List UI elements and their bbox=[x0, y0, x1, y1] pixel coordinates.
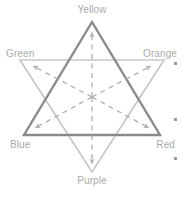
vertex-label-red: Red bbox=[156, 139, 175, 150]
vertex-label-green: Green bbox=[6, 48, 34, 59]
vertex-label-orange: Orange bbox=[143, 48, 177, 59]
bullet-dot-3 bbox=[174, 157, 177, 160]
diagram-canvas: Yellow Green Orange Blue Red Purple bbox=[0, 0, 184, 197]
bullet-dot-1 bbox=[174, 62, 177, 65]
hexagram-graphic bbox=[0, 0, 184, 197]
vertex-label-yellow: Yellow bbox=[0, 4, 184, 15]
radiating-arrow-group bbox=[33, 32, 151, 164]
bullet-dot-2 bbox=[174, 118, 177, 121]
vertex-label-blue: Blue bbox=[10, 139, 30, 150]
vertex-label-purple: Purple bbox=[0, 175, 184, 186]
